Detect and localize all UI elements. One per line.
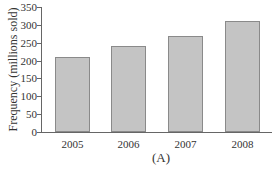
y-tick [37, 25, 41, 26]
y-tick-label: 300 [7, 19, 37, 31]
y-axis [41, 7, 42, 132]
y-tick-label: 100 [7, 90, 37, 102]
y-tick [37, 43, 41, 44]
bar-2005 [55, 57, 90, 132]
x-tick-label: 2007 [166, 138, 206, 150]
y-tick-label: 200 [7, 55, 37, 67]
x-tick-label: 2005 [53, 138, 93, 150]
bar-2008 [225, 21, 260, 132]
x-axis [41, 132, 272, 133]
y-tick [37, 96, 41, 97]
y-tick [37, 7, 41, 8]
y-tick-label: 150 [7, 72, 37, 84]
y-tick [37, 78, 41, 79]
y-tick-label: 0 [7, 126, 37, 138]
y-tick [37, 61, 41, 62]
chart-caption: (A) [141, 150, 181, 166]
y-tick-label: 350 [7, 1, 37, 13]
bar-2006 [111, 46, 146, 132]
bar-2007 [168, 36, 203, 132]
x-tick-label: 2006 [109, 138, 149, 150]
y-tick [37, 114, 41, 115]
x-tick-label: 2008 [223, 138, 263, 150]
y-tick [37, 132, 41, 133]
y-tick-label: 250 [7, 37, 37, 49]
y-tick-label: 50 [7, 108, 37, 120]
